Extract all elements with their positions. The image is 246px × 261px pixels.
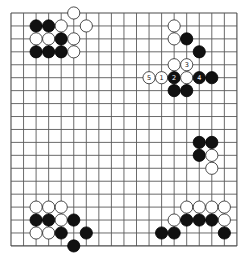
white-stone-circle (218, 214, 230, 226)
white-stone (168, 59, 180, 71)
white-stone (206, 149, 218, 161)
black-stone-circle (168, 85, 180, 97)
white-stone (30, 227, 42, 239)
black-stone (206, 214, 218, 226)
black-stone-circle (43, 214, 55, 226)
white-stone-circle (43, 201, 55, 213)
black-stone (206, 72, 218, 84)
move-number-label: 3 (185, 61, 189, 69)
white-stone-circle (206, 201, 218, 213)
white-stone-circle (168, 214, 180, 226)
black-stone-circle (156, 227, 168, 239)
black-stone-circle (43, 20, 55, 32)
white-stone (80, 20, 92, 32)
white-stone (168, 20, 180, 32)
go-board[interactable]: 35124 (0, 0, 246, 261)
white-stone (206, 201, 218, 213)
black-stone-circle (181, 85, 193, 97)
black-stone (193, 149, 205, 161)
white-stone (68, 46, 80, 58)
black-stone (30, 20, 42, 32)
black-stone-circle (218, 227, 230, 239)
white-stone-circle (80, 20, 92, 32)
move-number-label: 4 (197, 74, 201, 82)
black-stone (218, 227, 230, 239)
white-stone (55, 20, 67, 32)
white-stone-circle (206, 162, 218, 174)
black-stone (181, 214, 193, 226)
black-stone (80, 227, 92, 239)
white-stone (55, 201, 67, 213)
black-stone-circle (193, 214, 205, 226)
black-stone (193, 136, 205, 148)
black-stone (55, 46, 67, 58)
black-stone (68, 240, 80, 252)
black-stone (55, 33, 67, 45)
white-stone: 5 (143, 72, 155, 84)
black-stone (43, 46, 55, 58)
white-stone (218, 201, 230, 213)
move-number-label: 2 (172, 74, 176, 82)
black-stone-circle (193, 46, 205, 58)
white-stone (181, 72, 193, 84)
white-stone (30, 201, 42, 213)
black-stone: 4 (193, 72, 205, 84)
white-stone (43, 201, 55, 213)
white-stone (68, 33, 80, 45)
white-stone-circle (55, 214, 67, 226)
white-stone-circle (168, 33, 180, 45)
white-stone-circle (206, 149, 218, 161)
black-stone-circle (55, 227, 67, 239)
black-stone-circle (206, 214, 218, 226)
black-stone (181, 85, 193, 97)
white-stone (193, 201, 205, 213)
black-stone-circle (80, 227, 92, 239)
white-stone (43, 33, 55, 45)
black-stone (43, 20, 55, 32)
white-stone-circle (68, 33, 80, 45)
black-stone (193, 214, 205, 226)
white-stone-circle (68, 46, 80, 58)
white-stone-circle (168, 20, 180, 32)
white-stone-circle (168, 59, 180, 71)
white-stone (68, 7, 80, 19)
move-number-label: 5 (147, 74, 151, 82)
black-stone-circle (68, 240, 80, 252)
white-stone (55, 214, 67, 226)
black-stone (55, 227, 67, 239)
white-stone-circle (218, 201, 230, 213)
black-stone (168, 227, 180, 239)
white-stone-circle (30, 227, 42, 239)
black-stone (156, 227, 168, 239)
black-stone (30, 214, 42, 226)
white-stone (30, 33, 42, 45)
black-stone-circle (30, 20, 42, 32)
black-stone: 2 (168, 72, 180, 84)
white-stone-circle (43, 33, 55, 45)
black-stone-circle (43, 46, 55, 58)
white-stone-circle (30, 33, 42, 45)
black-stone-circle (181, 214, 193, 226)
white-stone-circle (181, 201, 193, 213)
white-stone-circle (55, 201, 67, 213)
black-stone-circle (193, 149, 205, 161)
white-stone-circle (181, 72, 193, 84)
black-stone (206, 136, 218, 148)
black-stone-circle (55, 46, 67, 58)
white-stone (168, 214, 180, 226)
move-number-label: 1 (160, 74, 164, 82)
black-stone-circle (30, 214, 42, 226)
white-stone-circle (68, 7, 80, 19)
black-stone-circle (68, 214, 80, 226)
black-stone-circle (193, 136, 205, 148)
black-stone (168, 85, 180, 97)
black-stone-circle (168, 227, 180, 239)
black-stone-circle (55, 33, 67, 45)
white-stone: 1 (156, 72, 168, 84)
black-stone (30, 46, 42, 58)
white-stone (181, 201, 193, 213)
white-stone (43, 227, 55, 239)
black-stone (181, 33, 193, 45)
black-stone (193, 46, 205, 58)
white-stone (206, 162, 218, 174)
